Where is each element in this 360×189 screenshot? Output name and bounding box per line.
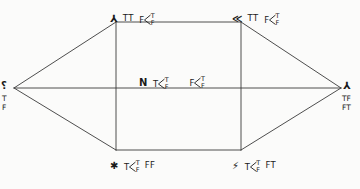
node-suffix-bottom-right: FT — [265, 160, 276, 170]
branch-fork-bottom-left: TF — [129, 161, 139, 173]
node-label-center-right: FTF — [189, 71, 205, 89]
branch-bottom-value-top-left: F — [151, 20, 155, 27]
node-marker-bottom-right: ⚡ — [232, 160, 239, 171]
node-marker-top-left: ⅄ — [110, 13, 118, 24]
node-prefix-top-left: TT — [123, 13, 134, 23]
node-label-top-left: ⅄ TT FTF — [110, 8, 155, 26]
branch-bottom-value-top-right: F — [276, 20, 280, 27]
edge-left-to-bottomleft — [14, 88, 116, 150]
left-vertex-glyph: ⸮ — [1, 80, 7, 91]
implication-glyph-center-left: TTF — [153, 74, 168, 90]
implication-glyph-bottom-left: TTF — [124, 157, 139, 173]
node-prefix-top-right: TT — [248, 13, 259, 23]
node-label-bottom-left: ✱ TTF FF — [110, 155, 155, 173]
edge-left-to-topleft — [14, 22, 116, 88]
branch-fork-top-left: TF — [144, 14, 154, 26]
branch-bottom-value-center-left: F — [165, 84, 169, 91]
edge-bottomright-to-right — [241, 88, 341, 150]
branch-fork-center-left: TF — [158, 78, 168, 90]
node-marker-bottom-left: ✱ — [110, 160, 118, 171]
branch-fork-center-right: TF — [194, 77, 204, 89]
left-vertex-stack-line-2: F — [2, 104, 6, 113]
diagram-canvas: ⅄ TT FTF ≪ TT FTF N TTF FTF ✱ TTF FF ⚡ — [0, 0, 360, 189]
node-label-center-left: N TTF — [139, 72, 169, 90]
implication-glyph-center-right: FTF — [190, 73, 205, 89]
branch-fork-top-right: TF — [269, 14, 279, 26]
node-marker-center-left: N — [139, 77, 147, 88]
branch-bottom-value-bottom-right: F — [256, 167, 260, 174]
node-marker-top-right: ≪ — [232, 13, 242, 24]
lattice-line-drawing — [0, 0, 360, 189]
node-label-top-right: ≪ TT FTF — [232, 8, 280, 26]
implication-glyph-top-left: FTF — [139, 10, 154, 26]
right-vertex-glyph: ⅄ — [343, 80, 351, 91]
node-suffix-bottom-left: FF — [145, 160, 156, 170]
implication-glyph-top-right: FTF — [264, 10, 279, 26]
edge-topright-to-right — [241, 22, 341, 88]
branch-bottom-value-center-right: F — [201, 83, 205, 90]
branch-fork-bottom-right: TF — [250, 161, 260, 173]
implication-glyph-bottom-right: TTF — [245, 157, 260, 173]
right-vertex-stack-line-2: FT — [342, 104, 351, 113]
branch-bottom-value-bottom-left: F — [136, 167, 140, 174]
node-label-bottom-right: ⚡ TTF FT — [232, 155, 276, 173]
